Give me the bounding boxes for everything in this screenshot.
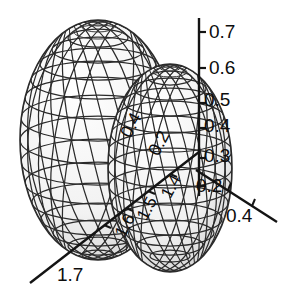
figure-canvas: 0.7 0.6 0.5 0.4 0.3 0.2 0.4 1.7 1.6 1.5 … [0,0,282,303]
vertical-tick-label-0-7: 0.7 [209,22,235,41]
vertical-tick-label-0-4: 0.4 [204,116,230,135]
vertical-tick-label-0-2: 0.2 [196,176,222,195]
right-axis-tick-label-0-4: 0.4 [226,206,252,225]
ellipsoid-wireframe-svg [0,0,282,303]
vertical-tick-label-0-5: 0.5 [204,90,230,109]
vertical-tick-label-0-6: 0.6 [209,58,235,77]
left-axis-tick-label-1-7: 1.7 [57,265,83,284]
vertical-tick-label-0-3: 0.3 [204,146,230,165]
